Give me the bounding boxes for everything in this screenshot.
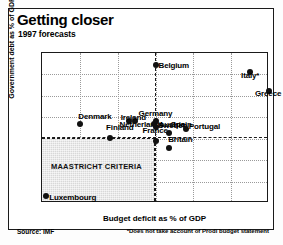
data-point[interactable] (166, 130, 172, 136)
chart-figure: Getting closer 1997 forecasts Government… (0, 0, 283, 245)
data-point[interactable] (107, 135, 113, 141)
footnote-note: *Does not take account of Prodi budget s… (127, 228, 269, 234)
data-point-label: Belgium (159, 62, 190, 70)
data-point[interactable] (77, 121, 83, 127)
data-point-label: Portugal (189, 123, 220, 131)
data-point-label: Italy* (241, 72, 259, 80)
plot-area: MAASTRICHT CRITERIA LuxembourgDenmarkFin… (41, 52, 268, 202)
data-point-label: Greece (255, 90, 281, 98)
data-point[interactable] (166, 145, 172, 151)
maastricht-criteria-label: MAASTRICHT CRITERIA (51, 162, 142, 171)
chart-subtitle: 1997 forecasts (18, 29, 76, 39)
data-point-label: Luxembourg (49, 194, 96, 202)
y-axis-label: Government debt as % of GDP (8, 0, 15, 118)
source-note: Source: IMF (17, 228, 54, 235)
data-point-label: Britain (168, 136, 192, 144)
x-axis-label: Budget deficit as % of GDP (41, 214, 268, 223)
y-axis-label-wrap: Government debt as % of GDP (14, 60, 26, 200)
data-point[interactable] (153, 138, 159, 144)
chart-title: Getting closer (17, 12, 114, 28)
data-point-label: Denmark (78, 113, 111, 121)
data-point[interactable] (43, 193, 49, 199)
